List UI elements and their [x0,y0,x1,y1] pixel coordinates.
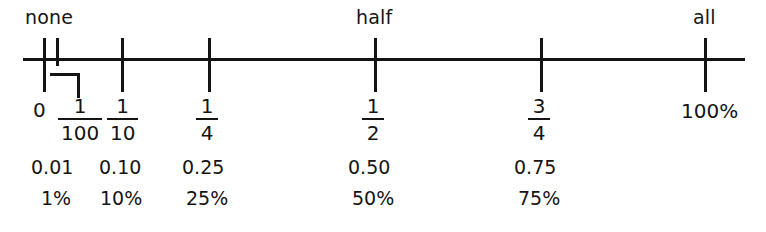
fraction-numerator: 1 [113,96,132,118]
fraction-numerator: 3 [530,96,549,118]
fraction-denominator: 2 [364,120,383,143]
tick-mark-zero [43,38,46,92]
fraction-one-hundredth: 1 100 [58,96,102,143]
percent-seventy-five: 75% [518,189,560,208]
tick-mark-one-whole [704,38,707,92]
percent-one: 1% [41,189,71,208]
percent-ten: 10% [100,189,142,208]
fraction-denominator: 10 [107,120,138,143]
number-line-figure: none half all 0 1 100 1 10 1 4 1 2 3 4 1… [0,0,766,232]
decimal-zero-point-seven-five: 0.75 [514,158,556,177]
step-connector-horizontal [50,73,80,76]
fraction-one-tenth: 1 10 [107,96,138,143]
decimal-zero-point-one-zero: 0.10 [99,158,141,177]
tick-mark-three-quarters [540,38,543,92]
fraction-numerator: 1 [71,96,90,118]
verbal-label-all: all [693,8,716,27]
fraction-one-half: 1 2 [362,96,384,143]
percent-twenty-five: 25% [186,189,228,208]
number-line-axis [23,58,745,61]
label-one-hundred-percent: 100% [681,101,738,121]
verbal-label-half: half [356,8,392,27]
fraction-denominator: 4 [198,120,217,143]
percent-fifty: 50% [352,189,394,208]
verbal-label-none: none [25,8,73,27]
tick-mark-one-half [374,38,377,92]
fraction-denominator: 100 [58,120,102,143]
decimal-zero-point-zero-one: 0.01 [31,158,73,177]
fraction-numerator: 1 [364,96,383,118]
tick-mark-one-hundredth [56,38,59,66]
fraction-denominator: 4 [530,120,549,143]
tick-mark-one-tenth [121,38,124,92]
decimal-zero-point-two-five: 0.25 [182,158,224,177]
fraction-numerator: 1 [198,96,217,118]
tick-mark-one-quarter [208,38,211,92]
fraction-one-quarter: 1 4 [196,96,218,143]
fraction-three-quarters: 3 4 [528,96,550,143]
label-zero: 0 [33,100,46,120]
decimal-zero-point-five-zero: 0.50 [348,158,390,177]
